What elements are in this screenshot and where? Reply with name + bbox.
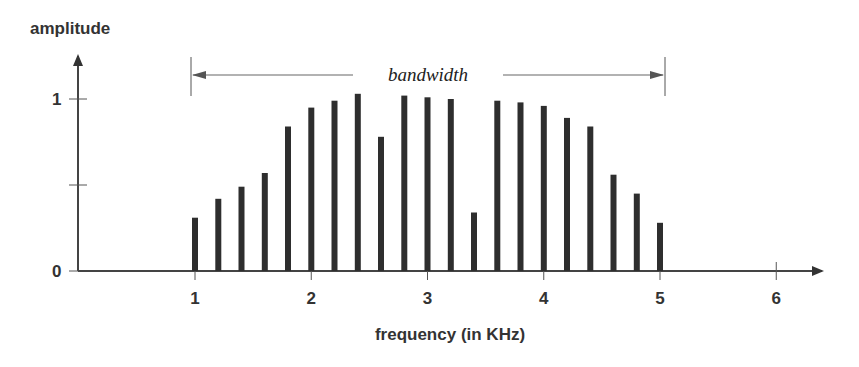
y-axis-label: amplitude [30, 19, 110, 38]
bandwidth-label: bandwidth [388, 64, 468, 85]
bar-4.6 [611, 175, 617, 271]
bar-4.0 [541, 106, 547, 271]
x-ticks: 123456 [190, 262, 781, 308]
bar-2.2 [332, 101, 338, 271]
y-tick-label-1: 1 [52, 90, 61, 109]
x-tick-label-5: 5 [655, 289, 664, 308]
bar-5.0 [657, 223, 663, 271]
bar-1.6 [262, 173, 268, 271]
bar-4.2 [564, 118, 570, 271]
bar-2.0 [308, 108, 314, 271]
bar-1.4 [239, 187, 245, 271]
x-tick-label-2: 2 [307, 289, 316, 308]
x-tick-label-3: 3 [423, 289, 432, 308]
x-tick-label-1: 1 [190, 289, 199, 308]
bar-1.0 [192, 218, 198, 271]
bars [192, 94, 663, 271]
bar-2.8 [401, 96, 407, 271]
bar-2.6 [378, 137, 384, 271]
bar-4.8 [634, 194, 640, 271]
bar-2.4 [355, 94, 361, 271]
bar-1.2 [215, 199, 221, 271]
bar-3.6 [494, 101, 500, 271]
bar-3.4 [471, 213, 477, 272]
spectrum-chart: amplitude 1 0 123456 frequency (in KHz) … [0, 0, 859, 367]
bar-3.8 [518, 102, 524, 271]
bar-3.0 [425, 97, 431, 271]
x-axis-label: frequency (in KHz) [375, 325, 525, 344]
bar-1.8 [285, 127, 291, 272]
y-tick-label-0: 0 [52, 262, 61, 281]
x-tick-label-4: 4 [539, 289, 549, 308]
bar-3.2 [448, 99, 454, 271]
x-tick-label-6: 6 [772, 289, 781, 308]
bar-4.4 [587, 127, 593, 272]
